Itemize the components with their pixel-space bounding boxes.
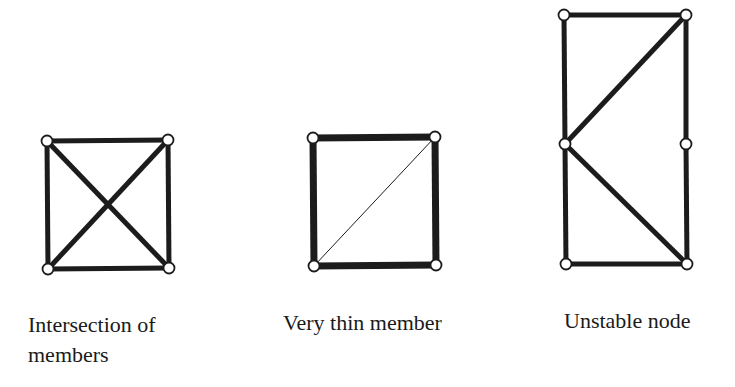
member-line [313,138,314,266]
member-line [47,141,48,269]
member-line [564,15,565,144]
member-line [565,15,686,144]
pin-node-icon [309,261,320,272]
caption-line-1: Intersection of [28,310,156,340]
caption-very-thin-member: Very thin member [283,308,442,338]
caption-line-2: members [28,340,156,370]
truss-unstable-node [559,10,693,270]
truss-very-thin-member [308,132,442,272]
pin-node-icon [682,259,693,270]
pin-node-icon [431,260,442,271]
member-line [168,140,169,268]
member-line [314,265,436,266]
pin-node-icon [560,139,571,150]
pin-node-icon [163,135,174,146]
pin-node-icon [42,136,53,147]
truss-intersection-of-members [42,135,175,275]
pin-node-icon [430,132,441,143]
pin-node-icon [561,259,572,270]
caption-unstable-node: Unstable node [564,306,690,336]
pin-node-icon [43,264,54,275]
thin-member-line [314,137,435,266]
caption-intersection-of-members: Intersection of members [28,310,156,370]
caption-line-1: Very thin member [283,308,442,338]
member-line [47,140,168,141]
member-line [686,144,687,264]
member-line [565,144,566,264]
member-line [313,137,435,138]
member-line [48,268,169,269]
caption-line-1: Unstable node [564,306,690,336]
pin-node-icon [681,10,692,21]
pin-node-icon [164,263,175,274]
pin-node-icon [559,10,570,21]
member-line [565,144,687,264]
member-line [435,137,436,265]
pin-node-icon [681,139,692,150]
pin-node-icon [308,133,319,144]
